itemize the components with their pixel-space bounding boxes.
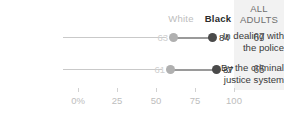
- legend-label-black: Black: [199, 13, 237, 24]
- legend-label-white: White: [160, 13, 202, 24]
- dot-black-police[interactable]: [208, 33, 217, 42]
- row-label-police-line2: the police: [166, 42, 284, 54]
- all-adults-header-line2: ADULTS: [234, 14, 284, 25]
- connector-justice-system: [170, 69, 217, 71]
- axis-tick-50: [156, 88, 157, 92]
- value-black-justice-system: 87: [223, 65, 234, 75]
- axis-tick-75: [195, 88, 196, 92]
- axis-label-100: 100: [219, 95, 249, 106]
- axis-tick-100: [234, 88, 235, 92]
- dot-black-justice-system[interactable]: [212, 65, 221, 74]
- value-black-police: 84: [219, 33, 230, 43]
- axis-tick-25: [117, 88, 118, 92]
- all-adults-header-line1: ALL: [234, 3, 284, 14]
- value-all-adults-justice-system: 65: [234, 64, 284, 75]
- axis-tick-0: [78, 88, 79, 92]
- dot-white-justice-system[interactable]: [166, 65, 175, 74]
- dot-white-police[interactable]: [169, 33, 178, 42]
- connector-police: [173, 37, 213, 39]
- axis-label-50: 50: [141, 95, 171, 106]
- axis-label-0: 0%: [63, 95, 93, 106]
- dot-plot-chart: White Black ALL ADULTS In dealing with t…: [0, 0, 284, 116]
- value-white-justice-system: 61: [147, 65, 165, 75]
- column-header-all-adults: ALL ADULTS: [234, 3, 284, 25]
- axis-label-25: 25: [102, 95, 132, 106]
- value-all-adults-police: 67: [234, 32, 284, 43]
- row-label-justice-line2: justice system: [166, 74, 284, 86]
- value-white-police: 63: [150, 33, 168, 43]
- axis-label-75: 75: [180, 95, 210, 106]
